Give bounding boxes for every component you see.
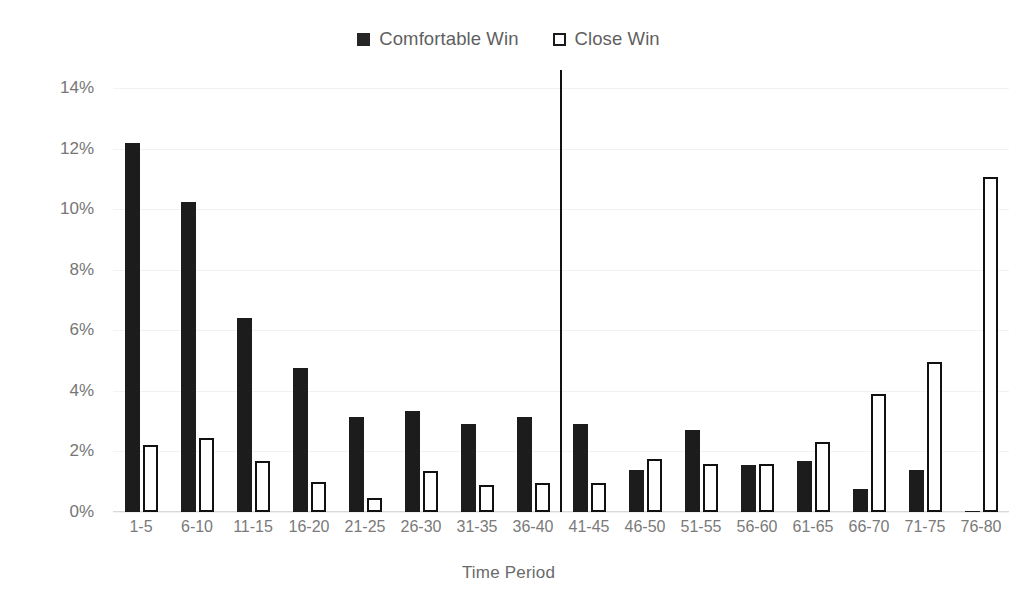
y-tick-label: 2% (69, 441, 94, 461)
y-tick-label: 6% (69, 320, 94, 340)
bar-group (897, 88, 953, 512)
x-tick-label: 31-35 (449, 518, 505, 546)
bar-group (953, 88, 1009, 512)
bar-close-win (703, 464, 718, 512)
bar-comfortable-win (797, 461, 812, 512)
bar-close-win (591, 483, 606, 512)
bar-group (729, 88, 785, 512)
legend-item-comfortable-win: Comfortable Win (357, 28, 518, 50)
bar-comfortable-win (685, 430, 700, 512)
x-tick-label: 56-60 (729, 518, 785, 546)
x-axis-ticks: 1-56-1011-1516-2021-2526-3031-3536-4041-… (113, 518, 1009, 546)
bar-group (617, 88, 673, 512)
outline-square-icon (553, 33, 566, 46)
x-tick-label: 36-40 (505, 518, 561, 546)
bar-comfortable-win (349, 417, 364, 512)
bar-group (785, 88, 841, 512)
plot-area (113, 88, 1009, 512)
bar-group (393, 88, 449, 512)
x-tick-label: 6-10 (169, 518, 225, 546)
bar-comfortable-win (293, 368, 308, 512)
bar-group (449, 88, 505, 512)
bar-group (561, 88, 617, 512)
bar-group (337, 88, 393, 512)
bar-group (841, 88, 897, 512)
x-tick-label: 26-30 (393, 518, 449, 546)
bar-close-win (815, 442, 830, 512)
legend-label-close-win: Close Win (575, 28, 660, 50)
bar-comfortable-win (125, 143, 140, 512)
bar-comfortable-win (965, 511, 980, 513)
bar-comfortable-win (237, 318, 252, 512)
bar-comfortable-win (517, 417, 532, 512)
bar-close-win (199, 438, 214, 512)
bar-group (225, 88, 281, 512)
x-tick-label: 66-70 (841, 518, 897, 546)
bar-comfortable-win (629, 470, 644, 512)
x-tick-label: 46-50 (617, 518, 673, 546)
bar-close-win (423, 471, 438, 512)
x-tick-label: 41-45 (561, 518, 617, 546)
x-tick-label: 71-75 (897, 518, 953, 546)
bar-comfortable-win (573, 424, 588, 512)
x-tick-label: 16-20 (281, 518, 337, 546)
bar-group (113, 88, 169, 512)
x-tick-label: 76-80 (953, 518, 1009, 546)
bar-close-win (311, 482, 326, 512)
chart-legend: Comfortable Win Close Win (0, 28, 1017, 50)
bar-close-win (367, 498, 382, 512)
bar-group (169, 88, 225, 512)
bar-close-win (143, 445, 158, 512)
bar-close-win (255, 461, 270, 512)
bar-comfortable-win (853, 489, 868, 512)
bar-group (673, 88, 729, 512)
y-tick-label: 14% (60, 78, 94, 98)
bar-close-win (647, 459, 662, 512)
y-tick-label: 4% (69, 381, 94, 401)
y-axis-ticks: 0%2%4%6%8%10%12%14% (0, 88, 103, 512)
bar-group (281, 88, 337, 512)
x-tick-label: 61-65 (785, 518, 841, 546)
bar-close-win (983, 177, 998, 512)
y-tick-label: 12% (60, 139, 94, 159)
legend-item-close-win: Close Win (553, 28, 660, 50)
bar-comfortable-win (181, 202, 196, 512)
bar-comfortable-win (405, 411, 420, 512)
bar-comfortable-win (909, 470, 924, 512)
bar-close-win (535, 483, 550, 512)
bar-chart: Comfortable Win Close Win Peercentage of… (0, 0, 1017, 608)
y-tick-label: 10% (60, 199, 94, 219)
bar-comfortable-win (741, 465, 756, 512)
bar-close-win (927, 362, 942, 512)
x-axis-title: Time Period (0, 563, 1017, 583)
bar-close-win (759, 464, 774, 512)
bar-close-win (479, 485, 494, 512)
legend-label-comfortable-win: Comfortable Win (379, 28, 518, 50)
phase-divider-line (560, 70, 562, 512)
x-tick-label: 51-55 (673, 518, 729, 546)
x-tick-label: 11-15 (225, 518, 281, 546)
bar-group (505, 88, 561, 512)
bar-close-win (871, 394, 886, 512)
y-tick-label: 0% (69, 502, 94, 522)
bar-groups (113, 88, 1009, 512)
x-tick-label: 1-5 (113, 518, 169, 546)
filled-square-icon (357, 33, 370, 46)
gridline (113, 512, 1009, 513)
y-tick-label: 8% (69, 260, 94, 280)
bar-comfortable-win (461, 424, 476, 512)
x-tick-label: 21-25 (337, 518, 393, 546)
